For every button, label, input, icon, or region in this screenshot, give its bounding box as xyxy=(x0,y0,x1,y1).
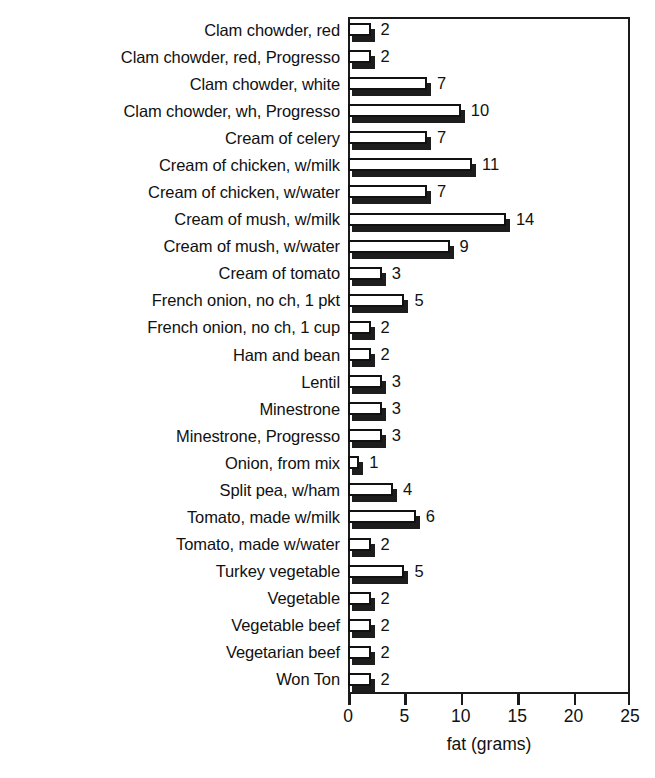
bar-row: 2 xyxy=(348,21,630,49)
bar-row: 4 xyxy=(348,481,630,509)
x-axis-tick xyxy=(404,694,407,705)
x-axis-tick xyxy=(348,694,351,705)
bar-value-label: 2 xyxy=(381,535,390,554)
bar-row: 7 xyxy=(348,75,630,103)
bar-value-label: 6 xyxy=(426,507,435,526)
bar-value-label: 2 xyxy=(381,20,390,39)
x-axis-tick-label: 25 xyxy=(620,706,639,727)
bar-row: 3 xyxy=(348,400,630,428)
category-label: French onion, no ch, 1 cup xyxy=(147,319,340,336)
x-axis-tick xyxy=(517,694,520,705)
bar-face[interactable] xyxy=(348,267,382,280)
bar-row: 7 xyxy=(348,129,630,157)
bar-face[interactable] xyxy=(348,240,450,253)
bar-row: 2 xyxy=(348,319,630,347)
x-axis-tick-label: 10 xyxy=(451,706,470,727)
category-label: Won Ton xyxy=(276,671,340,688)
category-label: Cream of chicken, w/milk xyxy=(159,157,340,174)
bar-value-label: 5 xyxy=(414,562,423,581)
bar-face[interactable] xyxy=(348,510,416,523)
bar-row: 10 xyxy=(348,102,630,130)
category-label: Turkey vegetable xyxy=(216,563,340,580)
bar-value-label: 7 xyxy=(437,128,446,147)
bar-face[interactable] xyxy=(348,158,472,171)
category-label: Cream of mush, w/milk xyxy=(174,211,340,228)
bar-face[interactable] xyxy=(348,592,371,605)
category-label: Clam chowder, wh, Progresso xyxy=(124,103,340,120)
bar-face[interactable] xyxy=(348,23,371,36)
category-label: Vegetable beef xyxy=(231,617,340,634)
bar-face[interactable] xyxy=(348,294,404,307)
bar-face[interactable] xyxy=(348,213,506,226)
bar-row: 2 xyxy=(348,346,630,374)
bar-face[interactable] xyxy=(348,348,371,361)
bar-row: 11 xyxy=(348,156,630,184)
bar-face[interactable] xyxy=(348,185,427,198)
category-label: Cream of chicken, w/water xyxy=(148,184,340,201)
bars-layer: 2271071171493522333146252222 xyxy=(348,17,630,694)
category-label: Cream of tomato xyxy=(219,265,340,282)
bar-value-label: 7 xyxy=(437,182,446,201)
x-axis-tick xyxy=(574,694,577,705)
category-label: Minestrone, Progresso xyxy=(176,428,340,445)
bar-value-label: 3 xyxy=(392,426,401,445)
category-label: Ham and bean xyxy=(233,347,340,364)
bar-face[interactable] xyxy=(348,538,371,551)
x-axis-tick-label: 20 xyxy=(564,706,583,727)
x-axis-tick xyxy=(628,694,631,705)
bar-value-label: 5 xyxy=(414,291,423,310)
x-axis-tick xyxy=(461,694,464,705)
bar-face[interactable] xyxy=(348,321,371,334)
bar-face[interactable] xyxy=(348,673,371,686)
category-label: Clam chowder, red, Progresso xyxy=(121,49,340,66)
bar-value-label: 2 xyxy=(381,589,390,608)
bar-value-label: 1 xyxy=(369,453,378,472)
bar-row: 9 xyxy=(348,238,630,266)
x-axis-title: fat (grams) xyxy=(348,734,630,755)
bar-value-label: 2 xyxy=(381,670,390,689)
bar-value-label: 2 xyxy=(381,345,390,364)
bar-face[interactable] xyxy=(348,375,382,388)
bar-row: 2 xyxy=(348,48,630,76)
bar-row: 6 xyxy=(348,508,630,536)
bar-row: 2 xyxy=(348,590,630,618)
bar-face[interactable] xyxy=(348,131,427,144)
scan-edge-artifact xyxy=(430,0,620,8)
bar-row: 3 xyxy=(348,265,630,293)
bar-value-label: 7 xyxy=(437,74,446,93)
bar-face[interactable] xyxy=(348,565,404,578)
bar-row: 2 xyxy=(348,617,630,645)
bar-row: 1 xyxy=(348,454,630,482)
bar-face[interactable] xyxy=(348,483,393,496)
category-label: Lentil xyxy=(301,374,340,391)
bar-face[interactable] xyxy=(348,429,382,442)
category-label: Tomato, made w/water xyxy=(176,536,340,553)
bar-row: 5 xyxy=(348,292,630,320)
bar-row: 2 xyxy=(348,536,630,564)
category-label: Clam chowder, red xyxy=(204,22,340,39)
bar-value-label: 2 xyxy=(381,616,390,635)
bar-face[interactable] xyxy=(348,619,371,632)
category-label: Onion, from mix xyxy=(225,455,340,472)
x-axis-tick-label: 0 xyxy=(343,706,353,727)
category-label: Vegetarian beef xyxy=(226,644,340,661)
category-label: Cream of mush, w/water xyxy=(163,238,340,255)
bar-face[interactable] xyxy=(348,402,382,415)
category-label: French onion, no ch, 1 pkt xyxy=(152,292,340,309)
bar-value-label: 4 xyxy=(403,480,412,499)
bar-face[interactable] xyxy=(348,456,359,469)
bar-row: 7 xyxy=(348,183,630,211)
bar-value-label: 3 xyxy=(392,264,401,283)
bar-row: 5 xyxy=(348,563,630,591)
bar-face[interactable] xyxy=(348,50,371,63)
bar-value-label: 2 xyxy=(381,47,390,66)
category-label: Vegetable xyxy=(267,590,340,607)
bar-value-label: 9 xyxy=(460,237,469,256)
bar-face[interactable] xyxy=(348,77,427,90)
category-label: Tomato, made w/milk xyxy=(187,509,340,526)
bar-face[interactable] xyxy=(348,104,461,117)
x-axis-tick-label: 5 xyxy=(400,706,410,727)
bar-value-label: 2 xyxy=(381,643,390,662)
bar-chart: Clam chowder, redClam chowder, red, Prog… xyxy=(0,0,655,778)
bar-face[interactable] xyxy=(348,646,371,659)
